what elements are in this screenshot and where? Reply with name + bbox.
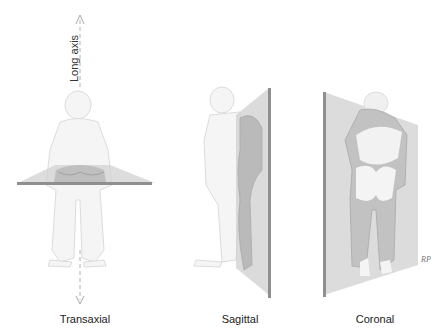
anatomical-planes-diagram: RP bbox=[0, 0, 443, 335]
coronal-panel: RP bbox=[323, 92, 431, 297]
transaxial-panel bbox=[17, 15, 155, 304]
panel-label-transaxial: Transaxial bbox=[50, 313, 120, 325]
long-axis-label: Long axis bbox=[68, 35, 80, 82]
artist-signature: RP bbox=[420, 255, 431, 264]
panel-label-coronal: Coronal bbox=[345, 313, 405, 325]
panel-label-sagittal: Sagittal bbox=[210, 313, 270, 325]
coronal-plane-edge bbox=[323, 92, 326, 297]
sagittal-panel bbox=[194, 87, 271, 298]
transaxial-plane bbox=[17, 165, 155, 185]
sagittal-plane-edge bbox=[268, 88, 271, 298]
